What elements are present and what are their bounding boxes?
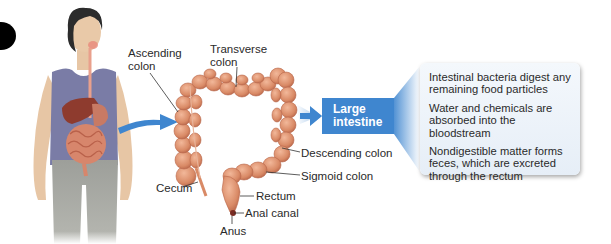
human-figure <box>34 8 133 244</box>
function-item: Intestinal bacteria digest any remaining… <box>429 71 572 96</box>
label-line: colon <box>128 60 182 73</box>
label-line: Transverse <box>210 43 267 56</box>
label-anus: Anus <box>220 225 246 238</box>
label-cecum: Cecum <box>156 182 192 195</box>
functions-panel: Intestinal bacteria digest any remaining… <box>420 63 580 175</box>
fan-connector <box>394 66 420 172</box>
organ-label-box: Large intestine <box>322 98 394 134</box>
organ-label-line2: intestine <box>333 116 394 129</box>
function-item: Nondigestible matter forms feces, which … <box>429 145 572 182</box>
label-ascending-colon: Ascending colon <box>128 47 182 73</box>
label-descending-colon: Descending colon <box>301 147 392 160</box>
label-line: Ascending <box>128 47 182 60</box>
label-transverse-colon: Transverse colon <box>210 43 267 69</box>
label-line: colon <box>210 56 267 69</box>
label-sigmoid-colon: Sigmoid colon <box>301 170 373 183</box>
label-anal-canal: Anal canal <box>245 207 299 220</box>
function-item: Water and chemicals are absorbed into th… <box>429 102 572 139</box>
label-rectum: Rectum <box>256 190 296 203</box>
